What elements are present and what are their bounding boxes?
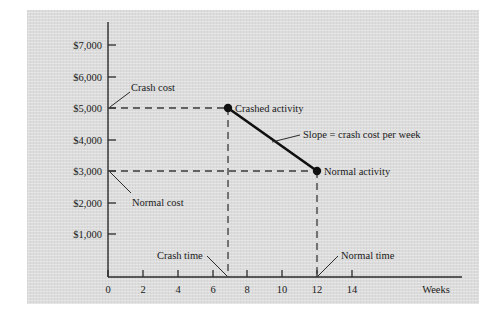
x-tick-marks — [108, 270, 352, 277]
normal-cost-leader-line — [110, 172, 131, 193]
figure-container: $7,000 $6,000 $5,000 $4,000 $3,000 $2,00… — [0, 0, 496, 319]
normal-time-leader-line — [318, 256, 338, 276]
x-tick-label-14: 14 — [347, 284, 358, 295]
y-tick-label-6000: $6,000 — [73, 72, 102, 83]
normal-cost-label: Normal cost — [132, 197, 184, 208]
x-tick-label-10: 10 — [277, 284, 288, 295]
crashed-activity-point[interactable] — [224, 104, 232, 112]
x-tick-label-12: 12 — [312, 284, 323, 295]
y-tick-label-3000: $3,000 — [73, 166, 102, 177]
y-tick-label-4000: $4,000 — [73, 135, 102, 146]
slope-label: Slope = crash cost per week — [303, 129, 421, 140]
crash-cost-leader-line — [110, 92, 130, 107]
y-tick-labels: $7,000 $6,000 $5,000 $4,000 $3,000 $2,00… — [73, 40, 102, 240]
crashed-activity-label: Crashed activity — [235, 103, 304, 114]
normal-activity-label: Normal activity — [324, 166, 391, 177]
crash-cost-label: Crash cost — [131, 82, 175, 93]
x-axis-title: Weeks — [422, 284, 450, 295]
slope-leader-line — [272, 135, 300, 142]
crash-time-label: Crash time — [157, 250, 203, 261]
y-tick-label-7000: $7,000 — [73, 40, 102, 51]
x-tick-label-4: 4 — [175, 284, 181, 295]
x-tick-label-8: 8 — [244, 284, 249, 295]
y-tick-marks — [108, 45, 116, 234]
x-tick-label-0: 0 — [105, 284, 110, 295]
y-tick-label-1000: $1,000 — [73, 229, 102, 240]
x-tick-label-6: 6 — [210, 284, 215, 295]
normal-activity-point[interactable] — [313, 167, 321, 175]
annotation-leader-lines — [110, 92, 338, 276]
x-tick-labels: 0 2 4 6 8 10 12 14 — [105, 284, 358, 295]
normal-time-label: Normal time — [341, 250, 395, 261]
y-tick-label-2000: $2,000 — [73, 198, 102, 209]
y-tick-label-5000: $5,000 — [73, 103, 102, 114]
crash-cost-chart: $7,000 $6,000 $5,000 $4,000 $3,000 $2,00… — [0, 0, 496, 319]
x-tick-label-2: 2 — [140, 284, 145, 295]
crash-time-leader-line — [207, 256, 227, 276]
guide-lines-group — [109, 108, 317, 277]
